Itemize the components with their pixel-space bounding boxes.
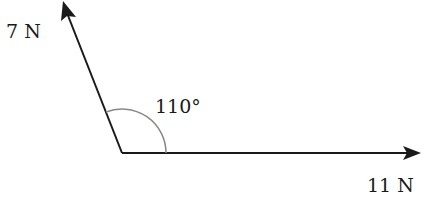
angle-label: 110° — [155, 95, 201, 117]
force-label-11n: 11 N — [367, 174, 414, 196]
force-label-7n: 7 N — [6, 20, 41, 42]
force-vector-7n — [67, 13, 122, 153]
force-diagram: 7 N 110° 11 N — [0, 0, 421, 198]
